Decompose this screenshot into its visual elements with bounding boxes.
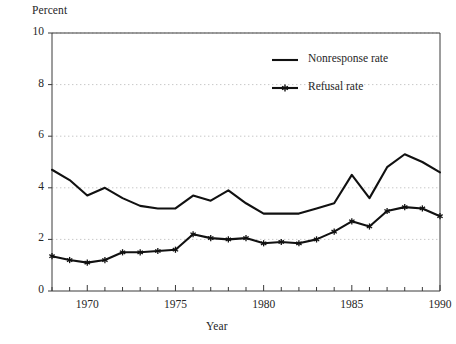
x-tick-label: 1975 <box>155 298 195 310</box>
chart-container: Percent Year 0246810 1970197519801985199… <box>0 0 456 344</box>
axes <box>52 33 440 291</box>
y-tick-label: 6 <box>20 128 44 140</box>
x-tick-label: 1980 <box>244 298 284 310</box>
legend-label-refusal-rate: Refusal rate <box>308 80 363 92</box>
axis-ticks <box>48 33 440 291</box>
y-tick-label: 0 <box>20 283 44 295</box>
x-tick-label: 1970 <box>67 298 107 310</box>
y-tick-label: 4 <box>20 180 44 192</box>
legend-label-nonresponse-rate: Nonresponse rate <box>308 52 388 64</box>
y-tick-label: 8 <box>20 77 44 89</box>
legend-markers <box>272 60 298 91</box>
x-tick-label: 1985 <box>332 298 372 310</box>
y-tick-label: 10 <box>20 25 44 37</box>
x-tick-label: 1990 <box>420 298 456 310</box>
y-tick-label: 2 <box>20 231 44 243</box>
data-series <box>49 154 442 265</box>
